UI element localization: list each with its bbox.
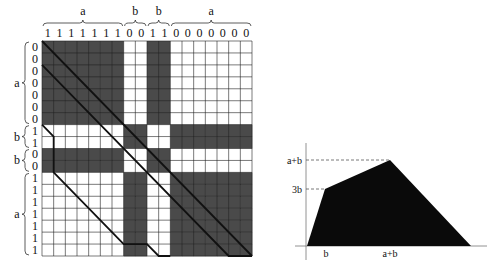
white-cell [182,160,194,172]
left-brace [22,150,29,172]
shaded-cell [159,89,171,101]
feasible-region-polygon [307,160,471,246]
shaded-cell [217,137,229,149]
white-cell [77,184,89,196]
white-cell [77,125,89,137]
white-cell [100,184,112,196]
white-cell [217,65,229,77]
shaded-cell [229,196,241,208]
shaded-cell [147,53,159,65]
shaded-cell [89,101,101,113]
shaded-cell [240,125,252,137]
shaded-cell [182,196,194,208]
white-cell [159,244,171,256]
white-cell [229,149,241,161]
white-cell [182,113,194,125]
left-group-label: b [14,153,20,167]
shaded-cell [182,232,194,244]
shaded-cell [100,149,112,161]
white-cell [182,41,194,53]
white-cell [229,65,241,77]
shaded-cell [124,184,136,196]
white-cell [89,232,101,244]
white-cell [65,137,77,149]
white-cell [65,244,77,256]
shaded-cell [194,208,206,220]
shaded-cell [135,125,147,137]
shaded-cell [240,184,252,196]
shaded-cell [159,77,171,89]
white-cell [217,160,229,172]
white-cell [147,184,159,196]
shaded-cell [54,149,66,161]
shaded-cell [135,232,147,244]
white-cell [42,184,54,196]
shaded-cell [112,89,124,101]
shaded-cell [217,172,229,184]
white-cell [89,137,101,149]
shaded-cell [159,101,171,113]
shaded-cell [135,184,147,196]
white-cell [205,65,217,77]
white-cell [112,220,124,232]
shaded-cell [124,244,136,256]
shaded-cell [89,77,101,89]
white-cell [89,244,101,256]
left-brace [22,173,29,255]
white-cell [42,220,54,232]
white-cell [124,41,136,53]
shaded-cell [159,53,171,65]
shaded-cell [89,41,101,53]
white-cell [124,89,136,101]
shaded-cell [240,220,252,232]
column-bit: 1 [92,26,98,40]
white-cell [205,77,217,89]
white-cell [229,89,241,101]
white-cell [217,149,229,161]
shaded-cell [112,53,124,65]
shaded-cell [229,208,241,220]
shaded-cell [229,172,241,184]
column-bit: 1 [115,26,121,40]
shaded-cell [147,89,159,101]
white-cell [229,41,241,53]
shaded-cell [54,101,66,113]
shaded-cell [217,184,229,196]
white-cell [217,53,229,65]
white-cell [112,244,124,256]
white-cell [240,77,252,89]
white-cell [205,101,217,113]
white-cell [100,208,112,220]
white-cell [205,160,217,172]
column-bit: 0 [197,26,203,40]
shaded-cell [112,149,124,161]
white-cell [112,208,124,220]
white-cell [229,113,241,125]
white-cell [89,172,101,184]
x-tick-label: b [324,248,329,259]
white-cell [54,208,66,220]
white-cell [194,53,206,65]
left-group-label: a [14,76,20,90]
shaded-cell [124,172,136,184]
shaded-cell [170,232,182,244]
x-tick-label: a+b [382,248,397,259]
white-cell [77,172,89,184]
white-cell [217,113,229,125]
shaded-cell [159,149,171,161]
shaded-cell [135,208,147,220]
shaded-cell [112,101,124,113]
shaded-cell [135,172,147,184]
shaded-cell [65,101,77,113]
row-labels: a0000000b11b00a1111111 [14,40,38,257]
white-cell [217,101,229,113]
shaded-cell [42,77,54,89]
white-cell [135,89,147,101]
white-cell [89,125,101,137]
shaded-cell [100,77,112,89]
white-cell [124,113,136,125]
shaded-cell [182,244,194,256]
white-cell [182,89,194,101]
shaded-cell [205,125,217,137]
white-cell [124,65,136,77]
